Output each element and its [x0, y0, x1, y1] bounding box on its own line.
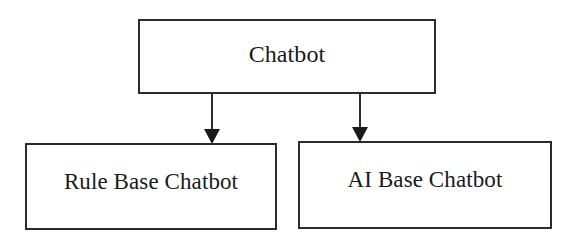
node-label-chatbot: Chatbot: [249, 41, 326, 68]
node-label-rule-base-chatbot: Rule Base Chatbot: [64, 169, 238, 195]
arrowhead-icon: [352, 127, 368, 142]
node-chatbot: Chatbot: [138, 19, 436, 94]
arrow-chatbot-to-rule-base: [204, 94, 220, 144]
arrow-chatbot-to-ai-base: [352, 94, 368, 142]
node-rule-base-chatbot: Rule Base Chatbot: [25, 143, 277, 230]
arrowhead-icon: [204, 129, 220, 144]
node-ai-base-chatbot: AI Base Chatbot: [298, 141, 552, 229]
node-label-ai-base-chatbot: AI Base Chatbot: [348, 167, 503, 193]
